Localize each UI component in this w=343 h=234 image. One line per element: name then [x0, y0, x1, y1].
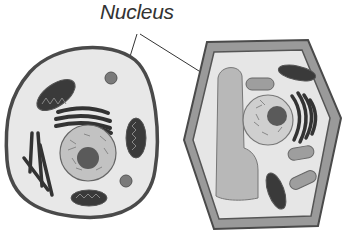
lysosome — [105, 72, 117, 84]
cell-diagram — [0, 0, 343, 234]
animal-cell — [6, 48, 157, 218]
plant-nucleolus — [267, 106, 287, 126]
plant-cell — [184, 40, 341, 229]
lysosome — [120, 175, 132, 187]
animal-nucleolus — [77, 147, 99, 169]
